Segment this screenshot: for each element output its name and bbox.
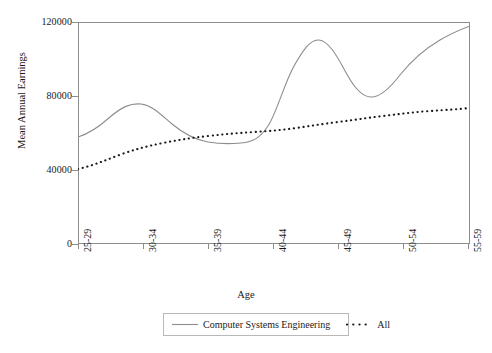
x-tick-mark — [78, 244, 79, 249]
x-tick-mark — [403, 244, 404, 249]
y-tick-mark — [72, 96, 78, 97]
legend: Computer Systems Engineering All — [163, 313, 349, 336]
x-tick-label-30-34: 30-34 — [147, 229, 158, 252]
x-tick-label-25-29: 25-29 — [82, 229, 93, 252]
series-line-all — [78, 108, 470, 169]
line-chart: 120000 80000 40000 0 Mean Annual Earning… — [0, 0, 492, 353]
y-tick-mark — [72, 22, 78, 23]
legend-entry-computer-systems-engineering: Computer Systems Engineering — [172, 319, 330, 330]
x-tick-label-45-49: 45-49 — [342, 229, 353, 252]
y-tick-label: 40000 — [10, 165, 72, 175]
y-axis-title: Mean Annual Earnings — [16, 36, 27, 166]
legend-label: Computer Systems Engineering — [203, 319, 330, 330]
solid-line-swatch-icon — [172, 321, 198, 328]
x-tick-label-55-59: 55-59 — [472, 229, 483, 252]
dashed-line-swatch-icon — [346, 321, 372, 328]
x-tick-mark — [208, 244, 209, 249]
x-tick-mark — [468, 244, 469, 249]
x-axis-title: Age — [0, 289, 492, 300]
plot-curves — [78, 22, 470, 244]
x-tick-label-35-39: 35-39 — [212, 229, 223, 252]
x-tick-label-40-44: 40-44 — [277, 229, 288, 252]
x-tick-mark — [143, 244, 144, 249]
x-tick-mark — [338, 244, 339, 249]
series-line-computer-systems-engineering — [78, 26, 470, 144]
legend-label: All — [377, 319, 390, 330]
x-tick-mark — [273, 244, 274, 249]
y-tick-mark — [72, 170, 78, 171]
y-axis: 120000 80000 40000 0 — [0, 0, 72, 353]
y-tick-label: 0 — [10, 239, 72, 249]
legend-entry-all: All — [346, 319, 390, 330]
y-tick-label: 120000 — [10, 17, 72, 27]
x-tick-label-50-54: 50-54 — [407, 229, 418, 252]
